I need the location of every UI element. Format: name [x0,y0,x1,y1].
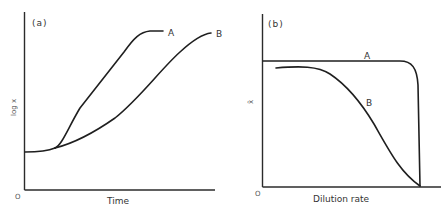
panel-a-x-label: Time [106,196,129,206]
panel-b-x-label: Dilution rate [313,194,369,204]
panel-a-origin-label: O [15,193,21,201]
panel-a-curve-b [55,33,211,148]
panel-b-curve-a [263,61,420,186]
panel-a: (a) O Time log x A B [10,12,222,206]
panel-a-label: (a) [32,18,48,28]
panel-b-origin-label: O [255,190,261,198]
panel-b-curve-b [276,67,420,186]
panel-a-curve-a [55,31,163,148]
panel-b: (b) O Dilution rate x̃ A B [247,14,441,204]
panel-a-lag-phase [25,148,55,152]
panel-a-curve-a-label: A [168,28,175,38]
figure: (a) O Time log x A B (b) O Dilution rate… [0,0,447,215]
panel-b-curve-a-label: A [364,51,371,61]
panel-b-y-label: x̃ [247,100,255,104]
panel-a-y-label: log x [10,99,18,116]
panel-a-curve-b-label: B [216,29,222,39]
panel-b-label: (b) [268,19,284,29]
panel-b-curve-b-label: B [366,98,372,108]
